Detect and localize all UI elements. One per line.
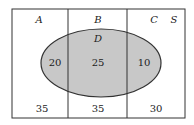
label-d: D xyxy=(93,33,102,44)
value-b: 35 xyxy=(92,103,105,114)
value-a-d: 20 xyxy=(49,57,62,68)
label-a: A xyxy=(34,14,42,25)
value-c-d: 10 xyxy=(138,57,151,68)
label-s: S xyxy=(171,14,178,25)
value-b-d: 25 xyxy=(92,57,105,68)
venn-diagram: A B C S D 20 25 10 35 35 30 xyxy=(0,0,194,125)
value-a: 35 xyxy=(36,103,49,114)
value-c: 30 xyxy=(150,103,163,114)
label-c: C xyxy=(150,14,158,25)
label-b: B xyxy=(93,14,101,25)
